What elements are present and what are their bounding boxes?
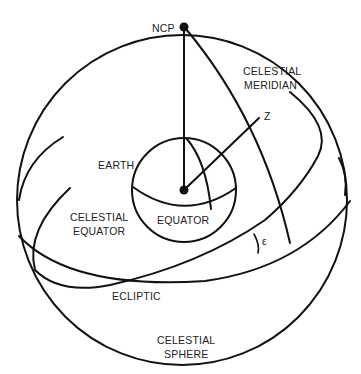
ecliptic-back-right <box>339 158 346 195</box>
zenith-label: Z <box>264 110 271 122</box>
zenith-line <box>184 118 259 190</box>
celestial-equator-label-line2: EQUATOR <box>73 225 126 237</box>
celestial-sphere-diagram: NCP CELESTIAL MERIDIAN Z EARTH CELESTIAL… <box>0 0 361 374</box>
epsilon-label: ε <box>262 235 267 247</box>
earth-label: EARTH <box>98 159 134 171</box>
celestial-sphere-label-line2: SPHERE <box>164 348 208 360</box>
earth-meridian-line <box>186 138 211 209</box>
equator-label: EQUATOR <box>157 214 210 226</box>
celestial-sphere-label-line1: CELESTIAL <box>157 334 215 346</box>
ncp-label: NCP <box>152 22 175 34</box>
obliquity-angle-arc <box>254 234 259 253</box>
celestial-sphere-outline <box>17 35 347 365</box>
celestial-meridian-label-line2: MERIDIAN <box>244 79 297 91</box>
celestial-meridian-label-line1: CELESTIAL <box>243 65 301 77</box>
ecliptic-arc <box>33 92 322 288</box>
celestial-equator-label-line1: CELESTIAL <box>70 211 128 223</box>
ecliptic-label: ECLIPTIC <box>112 290 161 302</box>
